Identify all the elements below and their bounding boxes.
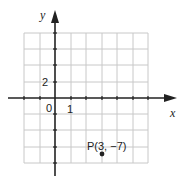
y-tick-label-2: 2	[42, 76, 48, 88]
y-axis-label: y	[39, 8, 46, 22]
x-axis-label: x	[169, 106, 176, 120]
origin-label: 0	[46, 102, 52, 114]
x-axis-arrow-icon	[164, 94, 177, 102]
y-axis-arrow-icon	[51, 10, 59, 23]
x-tick-label-1: 1	[67, 103, 73, 115]
point-p-marker-icon	[100, 152, 105, 157]
coordinate-plane: y x 2 0 1 P(3, −7)	[0, 0, 186, 183]
point-p-label: P(3, −7)	[87, 140, 126, 152]
x-axis	[8, 94, 177, 102]
y-axis	[51, 10, 59, 176]
